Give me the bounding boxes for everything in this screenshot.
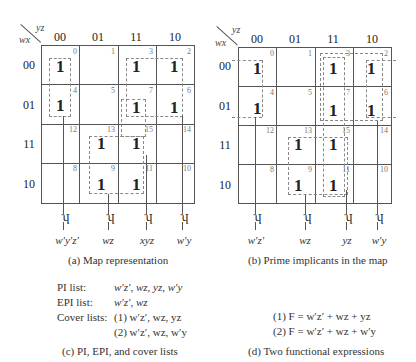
- col-header: 11: [314, 32, 352, 47]
- row-header: 01: [214, 99, 236, 114]
- row-var-label: wx: [215, 37, 226, 48]
- pi-label: PI list:: [57, 281, 86, 293]
- leader-line: [377, 121, 378, 214]
- expression-2: (2) F = w′z′ + wz + w′y: [273, 325, 376, 337]
- kmap-cell: 12: [239, 125, 277, 164]
- epi-value: w′z′, wz: [114, 296, 148, 308]
- caption-b: (b) Prime implicants in the map: [248, 254, 388, 266]
- group-wz: [288, 137, 348, 195]
- cover-list-2: (2) w′z′, wz, w′y: [114, 326, 187, 338]
- kmap-cell: 41: [239, 87, 277, 125]
- kmap-cell: 8: [239, 164, 277, 203]
- caption-a: (a) Map representation: [68, 254, 168, 266]
- kmap-cell: 10: [353, 164, 391, 203]
- group-w'y: [320, 53, 383, 121]
- kmap-b: yz wx 00 01 11 10 00 01 11 10 01 1 31 21…: [0, 0, 416, 250]
- epi-label: EPI list:: [57, 296, 93, 308]
- term-label: w′z′: [234, 234, 278, 246]
- col-header: 10: [353, 32, 391, 47]
- col-header: 00: [238, 32, 276, 47]
- row-header: 10: [214, 178, 236, 193]
- cover-list-1: (1) w′z′, wz, yz: [114, 311, 181, 323]
- row-header: 00: [214, 59, 236, 74]
- caption-c: (c) PI, EPI, and cover lists: [62, 345, 178, 357]
- term-label: wz: [283, 234, 327, 246]
- kmap-cell: 14: [353, 125, 391, 164]
- col-header: 01: [276, 32, 314, 47]
- term-label: w′y: [357, 234, 401, 246]
- pi-value: w′z′, wz, yz, w′y: [114, 281, 182, 293]
- kmap-cell: 01: [239, 48, 277, 87]
- cover-label: Cover lists:: [57, 311, 107, 323]
- expression-1: (1) F = w′z′ + wz + yz: [273, 310, 371, 322]
- leader-line: [255, 117, 256, 214]
- kmap-cell: 1: [277, 48, 315, 87]
- kmap-cell: 5: [277, 87, 315, 125]
- row-header: 11: [214, 138, 236, 153]
- caption-d: (d) Two functional expressions: [248, 345, 384, 357]
- group-w'z': [232, 60, 262, 61]
